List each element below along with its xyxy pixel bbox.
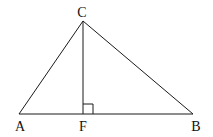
segment-ac: [19, 21, 83, 114]
right-angle-marker: [83, 104, 93, 114]
label-f: F: [79, 119, 87, 134]
label-a: A: [15, 119, 26, 134]
diagram-svg: A B C F: [0, 0, 213, 137]
segment-bc: [83, 21, 193, 114]
label-b: B: [191, 119, 200, 134]
triangle-diagram: A B C F: [0, 0, 213, 137]
label-c: C: [77, 5, 86, 20]
